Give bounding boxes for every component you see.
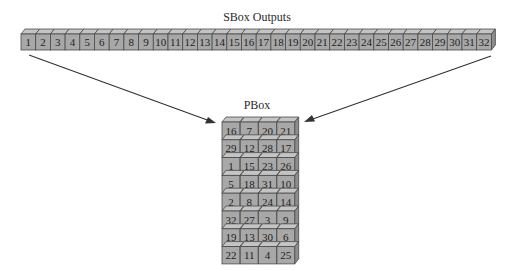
cell-label: 26 [390, 36, 402, 48]
pbox-grid: 1672021291228171152326518311028241432273… [222, 117, 299, 264]
cell-label: 9 [143, 36, 149, 48]
cell-label: 11 [170, 36, 181, 48]
right-arrow-line [310, 56, 491, 120]
cell-label: 13 [199, 36, 211, 48]
arrows [29, 55, 491, 124]
cell-label: 25 [376, 36, 388, 48]
cell-label: 3 [55, 36, 61, 48]
cell-label: 21 [317, 36, 328, 48]
left-arrow-head-icon [205, 117, 216, 124]
cell-label: 14 [214, 36, 226, 48]
cell-label: 27 [405, 36, 417, 48]
cell-label: 16 [243, 36, 255, 48]
cell-label: 31 [464, 36, 475, 48]
cell-label: 24 [361, 36, 373, 48]
cell-label: 19 [287, 36, 299, 48]
cell-label: 18 [273, 36, 285, 48]
cell-label: 32 [479, 36, 490, 48]
cell-label: 17 [258, 36, 270, 48]
cell-label: 29 [434, 36, 446, 48]
cell-label: 28 [420, 36, 432, 48]
cell-label: 22 [332, 36, 343, 48]
cell-label: 7 [114, 36, 120, 48]
sbox-pbox-diagram: 1234567891011121314151617181920212223242… [0, 0, 517, 270]
cell-label: 2 [40, 36, 46, 48]
cell-label: 12 [185, 36, 196, 48]
cell-label: 15 [229, 36, 241, 48]
right-arrow-head-icon [304, 115, 315, 122]
cell: 25 [277, 242, 299, 264]
cell-label: 1 [26, 36, 32, 48]
cell-label: 11 [244, 249, 255, 261]
cell: 32 [477, 29, 496, 50]
cell-label: 4 [70, 36, 76, 48]
cell-label: 8 [129, 36, 135, 48]
cell-label: 10 [155, 36, 167, 48]
left-arrow-line [29, 55, 210, 121]
cell-label: 20 [302, 36, 314, 48]
sbox-output-strip: 1234567891011121314151617181920212223242… [21, 29, 495, 50]
cell-label: 6 [99, 36, 105, 48]
cell-label: 30 [449, 36, 461, 48]
cell-label: 5 [84, 36, 90, 48]
cell-label: 22 [225, 249, 236, 261]
cell-label: 4 [265, 249, 271, 261]
cell-label: 23 [346, 36, 358, 48]
cell-label: 25 [280, 249, 292, 261]
